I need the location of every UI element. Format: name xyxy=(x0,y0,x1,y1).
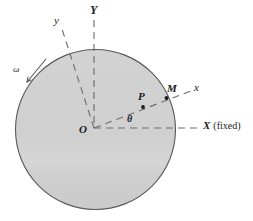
label-angle-theta: θ xyxy=(127,114,132,124)
label-fixed-x-axis: X(fixed) xyxy=(203,120,241,131)
label-fixed-x-axis-letter: X xyxy=(203,119,210,131)
label-point-p: P xyxy=(138,91,145,102)
figure-container: Y y ω x M P θ O X(fixed) xyxy=(0,0,253,221)
label-angular-velocity: ω xyxy=(13,65,19,74)
label-body-x-axis: x xyxy=(194,82,199,93)
label-origin: O xyxy=(79,124,87,135)
label-fixed-x-axis-note: (fixed) xyxy=(213,120,240,131)
label-body-y-axis: y xyxy=(54,15,59,26)
label-fixed-y-axis: Y xyxy=(90,4,97,16)
point-P-marker xyxy=(141,105,145,109)
diagram-canvas xyxy=(0,0,253,221)
label-point-m: M xyxy=(167,83,177,94)
rotating-disk xyxy=(16,50,176,210)
point-M-marker xyxy=(165,96,169,100)
